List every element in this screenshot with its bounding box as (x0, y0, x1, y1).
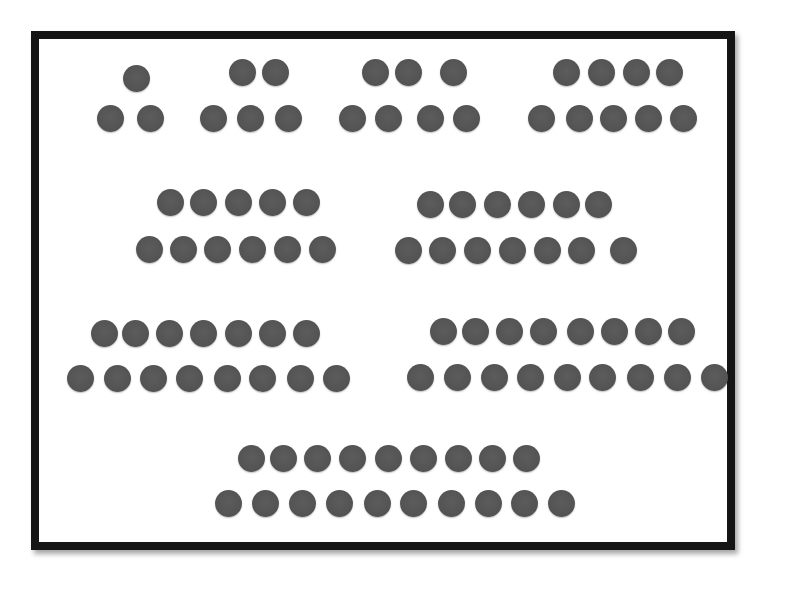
dot-bottom (701, 364, 728, 391)
dot-top (430, 318, 457, 345)
dot-bottom (289, 490, 316, 517)
dot-bottom (137, 105, 164, 132)
dot-bottom (252, 490, 279, 517)
dot-top (462, 318, 489, 345)
dot-top (238, 445, 265, 472)
dot-bottom (214, 365, 241, 392)
dot-top (91, 320, 118, 347)
dot-top (513, 445, 540, 472)
dot-bottom (499, 237, 526, 264)
dot-bottom (136, 236, 163, 263)
dot-top (553, 191, 580, 218)
dot-bottom (548, 490, 575, 517)
dot-top (395, 59, 422, 86)
dot-bottom (215, 490, 242, 517)
dot-bottom (395, 237, 422, 264)
dot-top (293, 189, 320, 216)
dot-bottom (309, 236, 336, 263)
dot-bottom (635, 105, 662, 132)
dot-bottom (239, 236, 266, 263)
dot-bottom (275, 105, 302, 132)
dot-bottom (249, 365, 276, 392)
dot-top (635, 318, 662, 345)
dot-top (259, 320, 286, 347)
dot-bottom (511, 490, 538, 517)
dot-bottom (670, 105, 697, 132)
dot-top (567, 318, 594, 345)
dot-top (259, 189, 286, 216)
dot-top (484, 191, 511, 218)
dot-bottom (326, 490, 353, 517)
dot-bottom (464, 237, 491, 264)
dot-bottom (339, 105, 366, 132)
dot-bottom (104, 365, 131, 392)
dot-top (375, 445, 402, 472)
dot-top (623, 59, 650, 86)
dot-bottom (600, 105, 627, 132)
dot-bottom (475, 490, 502, 517)
dot-top (417, 191, 444, 218)
dot-bottom (481, 364, 508, 391)
dot-bottom (364, 490, 391, 517)
dot-top (262, 59, 289, 86)
dot-bottom (429, 237, 456, 264)
dot-bottom (534, 237, 561, 264)
dot-bottom (407, 364, 434, 391)
dot-bottom (67, 365, 94, 392)
dot-bottom (287, 365, 314, 392)
dot-top (304, 445, 331, 472)
dot-top (156, 320, 183, 347)
dot-top (553, 59, 580, 86)
dot-top (190, 320, 217, 347)
dot-top (601, 318, 628, 345)
dot-bottom (323, 365, 350, 392)
dot-bottom (438, 490, 465, 517)
dot-top (157, 189, 184, 216)
dot-bottom (627, 364, 654, 391)
dot-bottom (176, 365, 203, 392)
dot-top (449, 191, 476, 218)
dot-top (122, 320, 149, 347)
dot-top (445, 445, 472, 472)
dot-top (585, 191, 612, 218)
dot-bottom (274, 236, 301, 263)
dot-bottom (453, 105, 480, 132)
dot-top (668, 318, 695, 345)
dot-top (656, 59, 683, 86)
dot-bottom (664, 364, 691, 391)
dot-bottom (140, 365, 167, 392)
dot-top (530, 318, 557, 345)
dot-top (123, 65, 150, 92)
dot-bottom (589, 364, 616, 391)
dot-bottom (517, 364, 544, 391)
dot-top (190, 189, 217, 216)
dot-top (225, 189, 252, 216)
dot-top (410, 445, 437, 472)
dot-top (270, 445, 297, 472)
dot-top (293, 320, 320, 347)
dot-bottom (170, 236, 197, 263)
dot-top (588, 59, 615, 86)
dot-bottom (375, 105, 402, 132)
dot-bottom (566, 105, 593, 132)
dot-bottom (528, 105, 555, 132)
dot-top (225, 320, 252, 347)
dot-bottom (417, 105, 444, 132)
dot-top (440, 59, 467, 86)
dot-bottom (400, 490, 427, 517)
dot-bottom (610, 237, 637, 264)
dot-bottom (204, 236, 231, 263)
dot-bottom (97, 105, 124, 132)
dot-bottom (554, 364, 581, 391)
dot-top (229, 59, 256, 86)
dot-top (362, 59, 389, 86)
dot-top (479, 445, 506, 472)
dot-bottom (568, 237, 595, 264)
dot-bottom (200, 105, 227, 132)
dot-top (518, 191, 545, 218)
dot-top (496, 318, 523, 345)
dot-top (339, 445, 366, 472)
dot-bottom (444, 364, 471, 391)
dot-bottom (237, 105, 264, 132)
